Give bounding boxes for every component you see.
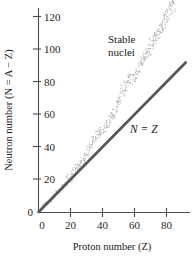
stable-nuclide-dot — [106, 126, 107, 127]
stable-nuclide-dot — [117, 100, 118, 101]
stable-nuclide-dot — [159, 29, 160, 30]
stable-nuclide-dot — [140, 60, 141, 61]
stable-nuclide-dot — [146, 50, 147, 51]
stable-nuclide-dot — [82, 160, 83, 161]
stable-nuclide-dot — [120, 103, 121, 104]
stable-nuclide-dot — [152, 40, 153, 41]
stable-nuclide-dot — [117, 101, 118, 102]
stable-nuclide-dot — [119, 100, 120, 101]
stable-nuclide-dot — [173, 3, 174, 4]
stable-nuclide-dot — [86, 149, 87, 150]
stable-nuclide-dot — [93, 140, 94, 141]
x-tick-label-80: 80 — [161, 219, 173, 231]
stable-nuclide-dot — [126, 87, 127, 88]
stable-nuclide-dot — [119, 98, 120, 99]
stable-nuclide-dot — [162, 24, 163, 25]
stable-nuclide-dot — [120, 88, 121, 89]
stable-nuclide-dot — [129, 77, 130, 78]
stable-nuclide-dot — [128, 86, 129, 87]
stable-nuclide-dot — [117, 107, 118, 108]
stable-nuclide-dot — [149, 38, 150, 39]
stable-nuclide-dot — [83, 159, 84, 160]
stable-nuclide-dot — [147, 53, 148, 54]
stable-nuclide-dot — [106, 124, 107, 125]
stable-nuclide-dot — [90, 147, 91, 148]
stable-nuclide-dot — [104, 127, 105, 128]
stable-nuclide-dot — [141, 64, 142, 65]
stable-nuclide-dot — [162, 26, 163, 27]
stable-nuclide-dot — [172, 10, 173, 11]
stable-nuclide-dot — [138, 65, 139, 66]
stable-nuclide-dot — [71, 176, 72, 177]
stable-nuclide-dot — [124, 95, 125, 96]
stable-nuclide-dot — [144, 59, 145, 60]
stable-nuclide-dot — [89, 151, 90, 152]
stable-nuclide-dot — [119, 104, 120, 105]
stable-nuclide-dot — [149, 54, 150, 55]
stable-nuclide-dot — [73, 167, 74, 168]
stable-nuclide-dot — [147, 48, 148, 49]
stable-nuclide-dot — [169, 4, 170, 5]
stable-nuclide-dot — [89, 144, 90, 145]
stable-nuclide-dot — [136, 74, 137, 75]
stable-nuclide-dot — [125, 88, 126, 89]
stable-nuclide-dot — [141, 57, 142, 58]
stable-nuclide-dot — [155, 39, 156, 40]
stable-nuclide-dot — [155, 32, 156, 33]
stable-nuclide-dot — [84, 158, 85, 159]
stable-nuclide-dot — [139, 71, 140, 72]
stable-nuclide-dot — [116, 110, 117, 111]
x-tick-label-40: 40 — [97, 219, 109, 231]
stable-nuclide-dot — [128, 76, 129, 77]
stable-nuclide-dot — [65, 182, 66, 183]
stable-nuclide-dot — [170, 3, 171, 4]
stable-nuclide-dot — [144, 61, 145, 62]
stable-nuclide-dot — [138, 68, 139, 69]
chart-svg: 120 100 80 60 40 20 0 0 20 40 60 80 Stab… — [0, 0, 194, 260]
stable-nuclide-dot — [112, 119, 113, 120]
stable-nuclide-dot — [142, 64, 143, 65]
stable-nuclide-dot — [127, 82, 128, 83]
stable-nuclide-dot — [153, 46, 154, 47]
stable-nuclide-dot — [126, 82, 127, 83]
stable-nuclide-dot — [97, 137, 98, 138]
stable-nuclide-dot — [157, 38, 158, 39]
stable-nuclide-dot — [157, 34, 158, 35]
stable-nuclide-dot — [154, 35, 155, 36]
stable-nuclide-dot — [53, 199, 54, 200]
stable-nuclide-dot — [109, 122, 110, 123]
stable-nuclide-dot — [83, 160, 84, 161]
stable-nuclide-dot — [97, 131, 98, 132]
stable-nuclide-dot — [61, 184, 62, 185]
stable-nuclide-dot — [119, 97, 120, 98]
stable-nuclide-dot — [59, 195, 60, 196]
stable-nuclide-dot — [136, 78, 137, 79]
stable-nuclide-dot — [133, 74, 134, 75]
stable-nuclide-dot — [105, 131, 106, 132]
stable-nuclide-dot — [154, 40, 155, 41]
stable-nuclide-dot — [72, 173, 73, 174]
stable-nuclide-dot — [129, 76, 130, 77]
stable-nuclide-dot — [174, 4, 175, 5]
stable-nuclide-dot — [103, 133, 104, 134]
stable-nuclide-dot — [80, 166, 81, 167]
stable-nuclide-dot — [143, 52, 144, 53]
stable-nuclide-dot — [87, 148, 88, 149]
stable-nuclide-dot — [164, 18, 165, 19]
stable-nuclide-dot — [71, 171, 72, 172]
stable-nuclide-dot — [106, 120, 107, 121]
stable-nuclide-dot — [167, 9, 168, 10]
stable-nuclide-dot — [155, 36, 156, 37]
stable-nuclide-dot — [166, 9, 167, 10]
stable-nuclide-dot — [171, 3, 172, 4]
stable-nuclide-dot — [160, 24, 161, 25]
stable-nuclide-dot — [163, 14, 164, 15]
stable-nuclide-dot — [109, 120, 110, 121]
stable-nuclide-dot — [95, 133, 96, 134]
stable-nuclide-dot — [167, 16, 168, 17]
y-axis-ticks — [33, 17, 41, 180]
stable-nuclide-dot — [151, 55, 152, 56]
stable-nuclide-dot — [129, 81, 130, 82]
stable-nuclide-dot — [146, 52, 147, 53]
stable-nuclide-dot — [158, 28, 159, 29]
